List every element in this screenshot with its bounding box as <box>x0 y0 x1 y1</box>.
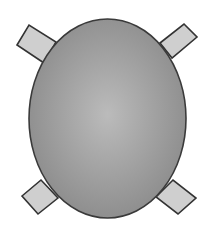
oval-table <box>29 19 186 218</box>
table-diagram <box>0 0 205 233</box>
